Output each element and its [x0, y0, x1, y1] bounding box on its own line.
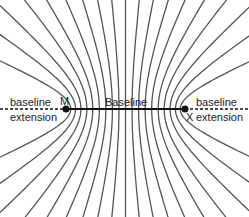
right-extension-label-bottom: extension	[196, 112, 243, 123]
hyperbolic-lines-diagram	[0, 0, 249, 217]
station-x-label: X	[186, 112, 193, 123]
left-extension-label-top: baseline	[10, 97, 51, 108]
left-extension-label-bottom: extension	[10, 112, 57, 123]
baseline-label: Baseline	[105, 97, 147, 108]
right-extension-label-top: baseline	[196, 97, 237, 108]
station-m-label: M	[60, 96, 69, 107]
